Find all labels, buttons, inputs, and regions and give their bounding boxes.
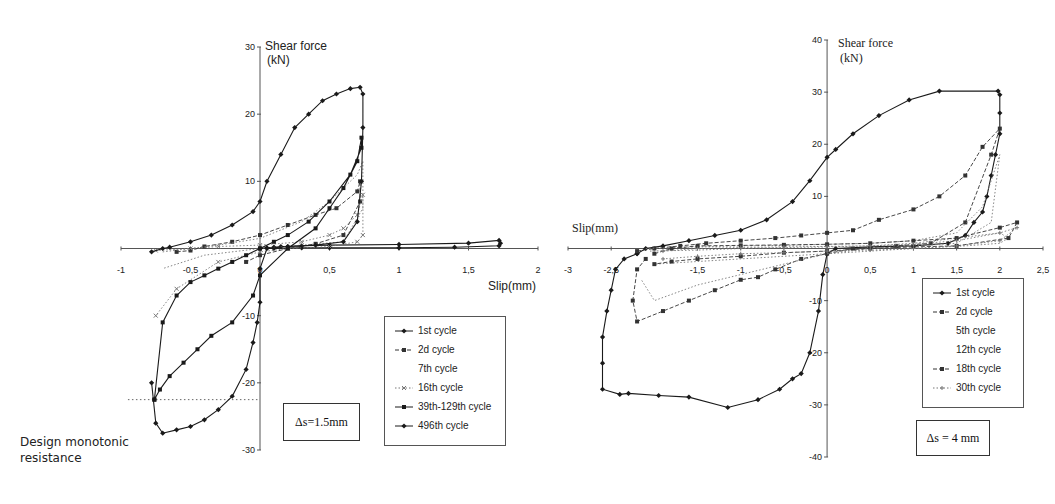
data-point-marker	[773, 267, 777, 271]
left-legend-swatch	[393, 345, 415, 355]
data-point-marker	[307, 220, 311, 224]
left-legend-item: 2d cycle	[393, 344, 455, 355]
data-point-marker	[264, 179, 269, 184]
data-point-marker	[634, 251, 639, 256]
left-legend-label: 1st cycle	[418, 325, 457, 336]
data-point-marker	[216, 260, 220, 264]
data-point-marker	[868, 244, 873, 249]
right-legend-item: 2d cycle	[931, 306, 993, 317]
right-legend-swatch	[931, 383, 953, 393]
data-point-marker	[971, 220, 976, 225]
data-point-marker	[911, 247, 915, 251]
data-point-marker	[355, 189, 359, 193]
data-point-marker	[997, 131, 1002, 136]
data-point-marker	[686, 238, 691, 243]
data-point-marker	[149, 249, 154, 254]
right-y-axis-label: Shear force	[838, 36, 893, 50]
data-point-marker	[963, 220, 967, 224]
data-point-marker	[341, 233, 345, 237]
right-legend-swatch	[931, 307, 953, 317]
right-x-tick-label: -1,5	[690, 265, 706, 275]
data-point-marker	[264, 246, 269, 251]
data-point-marker	[773, 236, 777, 240]
data-point-marker	[161, 320, 165, 324]
data-point-marker	[175, 287, 179, 291]
data-point-marker	[328, 206, 332, 210]
data-point-marker	[652, 247, 656, 251]
data-point-marker	[182, 361, 186, 365]
data-point-marker	[244, 367, 249, 372]
data-point-marker	[175, 294, 179, 298]
data-point-marker	[634, 251, 639, 256]
left-legend-item: 16th cycle	[393, 382, 463, 393]
data-point-marker	[258, 233, 262, 237]
right-legend-item: 12th cycle	[931, 344, 1001, 355]
data-point-marker	[255, 320, 260, 325]
data-point-marker	[738, 228, 743, 233]
data-point-marker	[980, 209, 985, 214]
right-series-5	[652, 220, 1019, 266]
left-series-2	[175, 179, 362, 264]
data-point-marker	[188, 239, 193, 244]
data-point-marker	[997, 92, 1002, 97]
right-x-tick-label: 1,5	[950, 265, 963, 275]
data-point-marker	[764, 217, 769, 222]
right-delta-s-box: Δs = 4 mm	[916, 420, 990, 456]
data-point-marker	[168, 374, 172, 378]
right-x-tick-label: 0	[825, 265, 830, 275]
right-y-tick-label: -30	[809, 400, 822, 410]
right-series-line	[663, 228, 1017, 259]
data-point-marker	[209, 334, 213, 338]
data-point-marker	[929, 241, 933, 245]
data-point-marker	[782, 251, 786, 255]
data-point-marker	[661, 257, 665, 261]
left-legend-item: 7th cycle	[393, 363, 457, 374]
data-point-marker	[348, 86, 353, 91]
data-point-marker	[777, 387, 782, 392]
data-point-marker	[851, 228, 855, 232]
data-point-marker	[981, 145, 985, 149]
right-x-axis-label: Slip(mm)	[572, 221, 618, 235]
data-point-marker	[348, 173, 352, 177]
left-delta-s-box: Δs=1.5mm	[283, 403, 360, 441]
data-point-marker	[230, 260, 234, 264]
data-point-marker	[635, 319, 639, 323]
data-point-marker	[963, 174, 967, 178]
data-point-marker	[825, 231, 829, 235]
right-legend-label: 30th cycle	[956, 382, 1001, 393]
data-point-marker	[782, 251, 786, 255]
data-point-marker	[670, 247, 674, 251]
data-point-marker	[825, 242, 829, 246]
data-point-marker	[644, 257, 648, 261]
data-point-marker	[631, 299, 635, 303]
left-legend-swatch	[393, 421, 415, 431]
left-series-line	[152, 87, 363, 433]
right-y-tick-label: -20	[809, 348, 822, 358]
data-point-marker	[661, 309, 665, 313]
data-point-marker	[328, 233, 332, 237]
data-point-marker	[604, 308, 609, 313]
data-point-marker	[911, 207, 915, 211]
left-series-line	[260, 240, 501, 248]
data-point-marker	[790, 199, 795, 204]
data-point-marker	[868, 247, 872, 251]
right-series-line	[650, 233, 1009, 264]
data-point-marker	[877, 218, 881, 222]
data-point-marker	[341, 186, 345, 190]
right-legend-label: 5th cycle	[956, 325, 995, 336]
data-point-marker	[661, 249, 665, 253]
left-legend-label: 496th cycle	[418, 420, 469, 431]
right-y-tick-label: 20	[812, 139, 822, 149]
right-legend-swatch	[931, 364, 953, 374]
data-point-marker	[1006, 236, 1010, 240]
left-y-axis-label: Shear force	[265, 39, 327, 53]
right-x-tick-label: -2,5	[603, 265, 619, 275]
data-point-marker	[799, 257, 803, 261]
data-point-marker	[955, 239, 959, 243]
left-y-tick-label: 20	[245, 109, 255, 119]
data-point-marker	[807, 178, 812, 183]
left-legend-item: 39th-129th cycle	[393, 401, 491, 412]
data-point-marker	[609, 288, 614, 293]
data-point-marker	[739, 243, 743, 247]
data-point-marker	[825, 249, 829, 253]
